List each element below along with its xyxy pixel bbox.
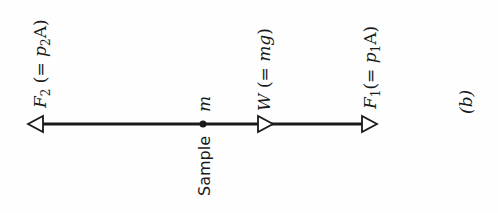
mass-symbol: m bbox=[194, 96, 214, 112]
svg-text:F2 (= p2A): F2 (= p2A) bbox=[30, 19, 53, 109]
svg-text:W (= mg): W (= mg) bbox=[254, 28, 274, 111]
f1-arrowhead-icon bbox=[362, 116, 377, 132]
sample-point-icon bbox=[200, 121, 207, 128]
weight-eq-close: ) bbox=[254, 28, 274, 35]
svg-text:F1(= p1A): F1(= p1A) bbox=[360, 26, 383, 110]
f2-pressure: p bbox=[30, 46, 50, 57]
f1-eq-close: ) bbox=[360, 26, 380, 33]
sample-label: Sample bbox=[195, 136, 214, 196]
svg-text:(b): (b) bbox=[456, 90, 476, 114]
f1-subscript: 1 bbox=[369, 90, 383, 98]
svg-text:Sample: Sample bbox=[195, 136, 214, 196]
weight-expr: mg bbox=[254, 35, 274, 62]
f2-area: A bbox=[30, 25, 50, 39]
weight-eq-open: (= bbox=[254, 62, 274, 94]
f1-area: A bbox=[360, 32, 380, 46]
f1-pressure-sub: 1 bbox=[369, 45, 383, 53]
weight-symbol: W bbox=[254, 92, 274, 111]
weight-arrowhead-icon bbox=[258, 116, 273, 132]
free-body-diagram: F2 (= p2A) Sample m W (= mg) F1(= p1A) (… bbox=[0, 0, 498, 213]
f2-pressure-sub: 2 bbox=[39, 38, 53, 46]
f1-pressure: p bbox=[360, 52, 380, 63]
f2-eq-open: (= bbox=[30, 57, 50, 89]
f2-eq-close: ) bbox=[30, 19, 50, 26]
f1-eq-open: (= bbox=[360, 63, 380, 89]
f2-subscript: 2 bbox=[39, 89, 53, 97]
panel-label: (b) bbox=[456, 90, 476, 114]
svg-text:m: m bbox=[194, 96, 214, 112]
f2-arrowhead-icon bbox=[28, 116, 43, 132]
